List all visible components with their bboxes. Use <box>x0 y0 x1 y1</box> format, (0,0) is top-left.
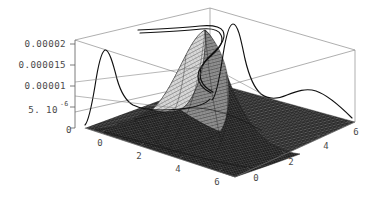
z-tick-label-5e-6-exponent: -6 <box>60 100 69 108</box>
y-tick-label-4: 4 <box>323 141 328 151</box>
x-tick-label-2: 2 <box>136 151 141 161</box>
x-tick-label-4: 4 <box>175 164 180 174</box>
z-tick-label-5e-6-mantissa: 5. 10 <box>28 104 58 115</box>
y-tick-label-6: 6 <box>353 127 358 137</box>
surface-plot-figure: 0.00002 0.000015 0.00001 5. 10 -6 0 <box>0 0 381 201</box>
surface-mesh <box>85 30 355 177</box>
z-tick-label-0.00001: 0.00001 <box>24 80 66 91</box>
z-tick-label-0.00002: 0.00002 <box>24 38 66 49</box>
z-axis-tick-labels: 0.00002 0.000015 0.00001 5. 10 -6 0 <box>19 38 72 135</box>
y-tick-label-2: 2 <box>288 157 293 167</box>
z-tick-label-0.000015: 0.000015 <box>19 59 66 70</box>
plot-canvas: 0.00002 0.000015 0.00001 5. 10 -6 0 <box>0 0 381 201</box>
x-tick-label-6: 6 <box>214 177 219 187</box>
z-tick-label-0: 0 <box>66 124 72 135</box>
z-axis <box>70 40 75 128</box>
y-tick-label-0: 0 <box>253 173 258 183</box>
x-tick-label-0: 0 <box>97 138 102 148</box>
